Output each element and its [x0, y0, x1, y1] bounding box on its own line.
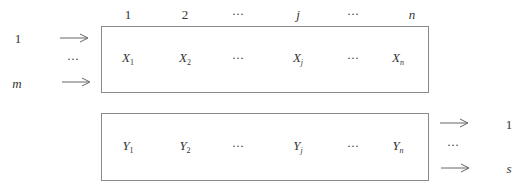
input-cell-xn: Xn [392, 51, 404, 67]
input-cell-xn-base: X [392, 50, 400, 65]
column-header-1: 1 [125, 8, 132, 21]
input-arrow-1 [60, 33, 90, 43]
output-label-1: 1 [506, 118, 513, 131]
input-cell-x1-sub: 1 [130, 58, 134, 67]
input-cell-ellipsis-1: ··· [232, 52, 244, 64]
output-cell-yj: Yj [293, 139, 302, 155]
input-box [101, 26, 429, 93]
output-cell-y1-sub: 1 [130, 146, 134, 155]
input-cell-x1-base: X [122, 50, 130, 65]
output-box [101, 113, 429, 181]
input-cell-x1: X1 [122, 51, 134, 67]
input-cell-xn-sub: n [400, 58, 404, 67]
input-label-m: m [12, 77, 21, 90]
output-cell-yj-sub: j [301, 146, 303, 155]
output-cell-y1: Y1 [122, 139, 133, 155]
input-arrow-m [62, 77, 92, 87]
input-cell-xj-sub: j [301, 58, 303, 67]
output-cell-ellipsis-1: ··· [232, 140, 244, 152]
column-header-n: n [409, 8, 416, 21]
column-header-j: j [296, 8, 300, 21]
output-label-s: s [506, 162, 511, 175]
column-header-ellipsis-2: ··· [347, 8, 359, 20]
input-cell-x2: X2 [179, 51, 191, 67]
input-cell-xj-base: X [293, 50, 301, 65]
output-cell-yn-sub: n [400, 146, 404, 155]
input-cell-xj: Xj [293, 51, 303, 67]
input-label-1: 1 [15, 32, 22, 45]
output-label-ellipsis: ··· [447, 139, 459, 151]
output-cell-yn: Yn [392, 139, 403, 155]
input-cell-x2-base: X [179, 50, 187, 65]
output-cell-y2: Y2 [179, 139, 190, 155]
output-cell-y2-sub: 2 [187, 146, 191, 155]
input-cell-x2-sub: 2 [187, 58, 191, 67]
input-label-ellipsis: ··· [67, 53, 79, 65]
output-arrow-s [441, 163, 471, 173]
column-header-2: 2 [182, 8, 189, 21]
input-cell-ellipsis-2: ··· [347, 52, 359, 64]
column-header-ellipsis-1: ··· [232, 8, 244, 20]
output-cell-ellipsis-2: ··· [347, 140, 359, 152]
output-arrow-1 [440, 118, 470, 128]
